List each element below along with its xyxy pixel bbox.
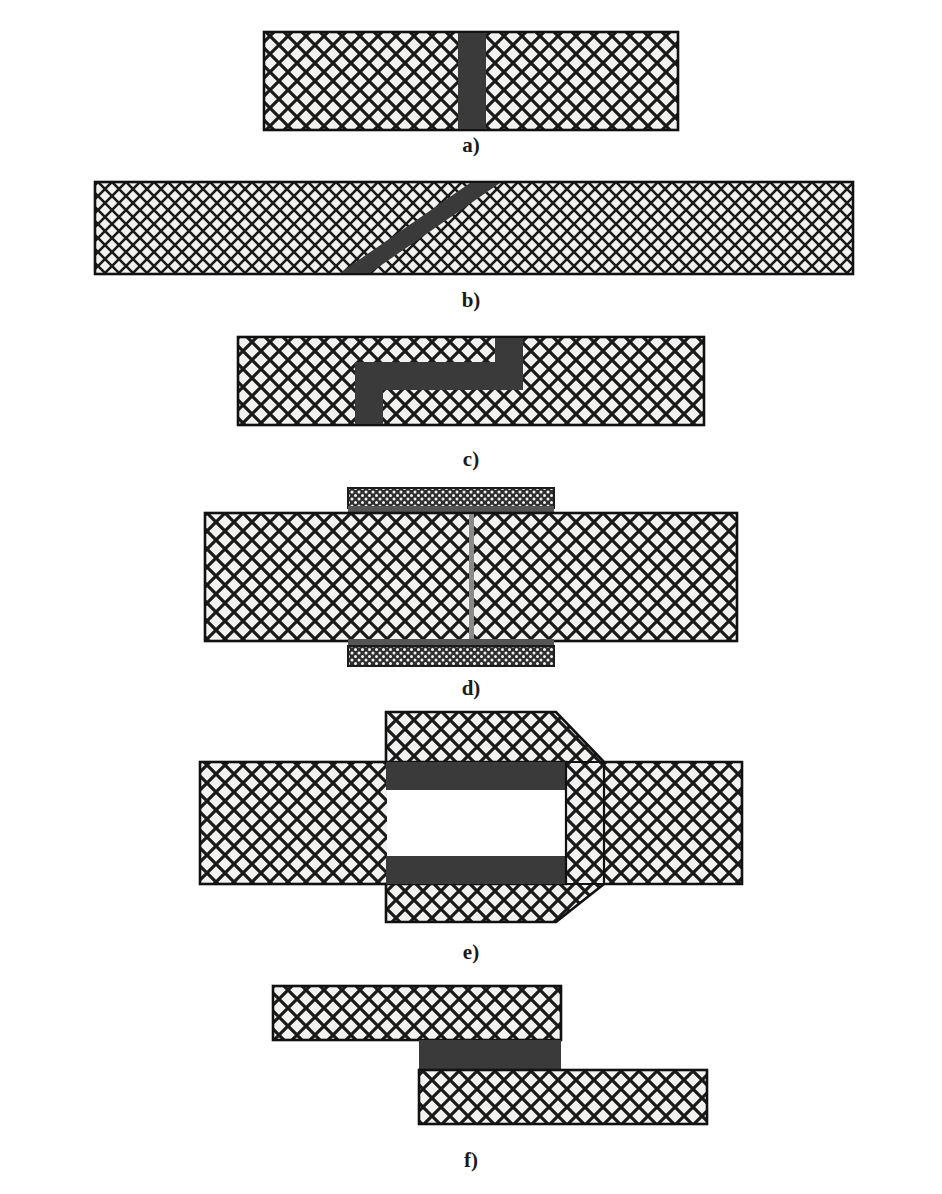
- cover-plate-top: [348, 488, 554, 508]
- panel-label-b: b): [441, 288, 501, 313]
- joint-seam: [469, 514, 474, 640]
- adherend-bar-lower: [419, 1070, 707, 1124]
- panel-e-socket-joint: [200, 712, 742, 922]
- cover-plate-bottom: [348, 646, 554, 666]
- adhesive-layer: [458, 33, 486, 129]
- panel-d-double-strap-joint: [205, 488, 737, 666]
- panel-label-d: d): [441, 676, 501, 701]
- adherend-bar-upper: [273, 986, 561, 1040]
- panel-a-butt-joint: [264, 32, 678, 130]
- adhesive-layer-top: [386, 762, 566, 790]
- panel-label-e: e): [441, 940, 501, 965]
- adhesive-layer: [419, 1040, 561, 1070]
- panel-c-stepped-lap-joint: [238, 337, 704, 425]
- panel-b-scarf-joint: [95, 182, 853, 274]
- joint-diagram-canvas: [0, 0, 942, 1194]
- figure-sheet: a) b) c) d) e) f): [0, 0, 942, 1194]
- adhesive-layer-bottom: [386, 856, 566, 884]
- panel-label-a: a): [441, 133, 501, 158]
- panel-label-c: c): [441, 447, 501, 472]
- panel-label-f: f): [441, 1148, 501, 1173]
- socket-wall: [566, 762, 604, 884]
- panel-f-single-lap-joint: [273, 986, 707, 1124]
